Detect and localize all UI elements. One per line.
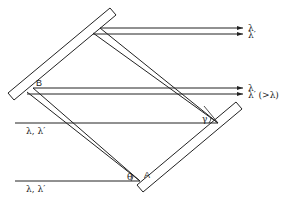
point-a-label: A xyxy=(144,170,150,180)
point-b-label: B xyxy=(36,78,42,88)
diffracted-ray-gamma-2 xyxy=(100,28,218,123)
theta-label: θ xyxy=(127,172,132,182)
output-label-2: λ′ xyxy=(248,30,256,40)
output-label-4: λ′ (>λ) xyxy=(248,90,279,100)
incident-label-lower: λ, λ′ xyxy=(26,184,45,194)
diffracted-ray-A-1 xyxy=(27,92,140,181)
grating-diagram: B A θ γ λ, λ′ λ, λ′ λ λ′ λ λ′ (>λ) xyxy=(0,0,296,203)
incident-label-upper: λ, λ′ xyxy=(26,126,45,136)
diffracted-ray-gamma-1 xyxy=(93,33,218,123)
gamma-label: γ xyxy=(202,114,207,124)
gamma-arc xyxy=(209,117,211,123)
lower-grating xyxy=(137,102,242,192)
upper-grating xyxy=(8,8,116,100)
diffracted-ray-A-2 xyxy=(33,88,140,181)
